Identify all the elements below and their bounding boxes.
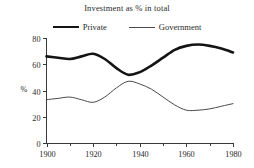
y-tick-label: 80 bbox=[32, 35, 40, 44]
y-tick-label: 40 bbox=[32, 88, 40, 97]
series-line-private bbox=[47, 45, 234, 75]
series-line-government bbox=[47, 81, 234, 110]
x-tick-label: 1920 bbox=[85, 150, 101, 159]
y-axis-label: % bbox=[21, 85, 28, 94]
x-tick-label: 1940 bbox=[132, 150, 148, 159]
plot-area: % 020406080 19001920194019601980 bbox=[0, 0, 254, 168]
y-tick-label: 60 bbox=[32, 61, 40, 70]
y-tick-labels: 020406080 bbox=[32, 35, 40, 149]
y-axis: % 020406080 bbox=[21, 35, 47, 149]
y-tick-marks bbox=[43, 39, 47, 144]
x-tick-labels: 19001920194019601980 bbox=[39, 150, 241, 159]
y-tick-label: 20 bbox=[32, 114, 40, 123]
y-tick-label: 0 bbox=[36, 140, 40, 149]
chart-figure: Investment as % in total Private Governm… bbox=[0, 0, 254, 168]
x-axis: 19001920194019601980 bbox=[39, 143, 241, 159]
x-tick-label: 1960 bbox=[178, 150, 194, 159]
x-tick-label: 1900 bbox=[39, 150, 55, 159]
x-tick-label: 1980 bbox=[225, 150, 241, 159]
